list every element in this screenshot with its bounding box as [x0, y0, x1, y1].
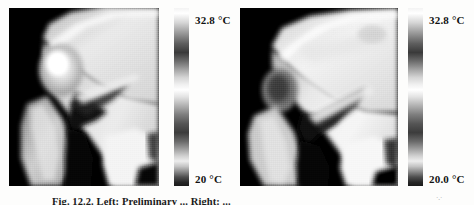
thermogram-right-image	[240, 8, 398, 186]
temperature-colorbar-right	[408, 8, 423, 186]
colorbar-max-label-left: 32.8 °C	[195, 14, 231, 26]
temperature-colorbar-left	[174, 8, 189, 186]
thermogram-left-image	[9, 8, 159, 186]
colorbar-max-label-right: 32.8 °C	[429, 14, 465, 26]
figure-container: 32.8 °C 20 °C	[0, 0, 474, 205]
figure-caption: Fig. 12.2. Left: Preliminary ... Right: …	[52, 196, 452, 205]
thermogram-right-svg	[240, 8, 398, 186]
colorbar-min-label-right: 20.0 °C	[429, 173, 465, 185]
colorbar-min-label-left: 20 °C	[195, 173, 222, 185]
thermogram-left-svg	[9, 8, 159, 186]
